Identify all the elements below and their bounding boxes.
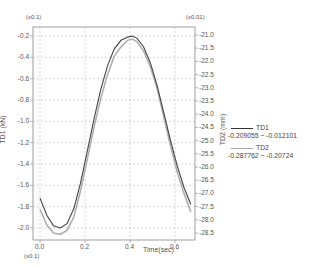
y-right-tick-label: -22.5	[199, 71, 214, 78]
y-left-tick-label: -0.8	[1, 96, 29, 103]
y-left-tick-label: -1.8	[1, 203, 29, 210]
y-right-tick-label: -25.5	[199, 150, 214, 157]
y-right-tick-label: -27.0	[199, 189, 214, 196]
legend-swatch-td2	[231, 148, 253, 149]
y-right-tick-label: -24.5	[199, 123, 214, 130]
y-right-axis-label: TD2 (mm)	[219, 114, 226, 146]
y-right-tick-label: -28.5	[199, 229, 214, 236]
y-right-multiplier: (x0.01)	[186, 14, 205, 20]
y-right-tick-label: -24.0	[199, 110, 214, 117]
y-left-tick-label: -0.2	[1, 32, 29, 39]
legend-label-td1: TD1	[256, 124, 269, 131]
legend-swatch-td1	[231, 128, 253, 129]
y-right-tick-label: -21.0	[199, 31, 214, 38]
y-right-tick-label: -28.0	[199, 216, 214, 223]
series-line-td1	[40, 36, 191, 228]
x-tick-label: 0.4	[125, 243, 134, 250]
y-left-tick-label: -0.6	[1, 75, 29, 82]
x-multiplier: (x0.1)	[24, 253, 39, 259]
x-axis-label: Time(sec)	[143, 246, 174, 253]
series-line-td2	[40, 39, 191, 234]
y-right-tick-label: -23.0	[199, 84, 214, 91]
y-left-tick-label: -1.4	[1, 160, 29, 167]
legend-range-td1: -0.209055 ~ -0.012101	[228, 132, 297, 139]
y-right-tick-label: -27.5	[199, 203, 214, 210]
y-right-tick-label: -25.0	[199, 137, 214, 144]
y-left-multiplier: (x0.1)	[26, 14, 41, 20]
legend-range-td2: -0.287762 ~ -0.20724	[228, 152, 293, 159]
x-tick-label: 0.2	[80, 243, 89, 250]
legend-label-td2: TD2	[256, 144, 269, 151]
y-right-tick-label: -23.5	[199, 97, 214, 104]
y-right-tick-label: -21.5	[199, 44, 214, 51]
y-left-tick-label: -0.4	[1, 53, 29, 60]
x-tick-label: 0.0	[35, 243, 44, 250]
y-right-tick-label: -26.5	[199, 176, 214, 183]
y-right-tick-label: -22.0	[199, 57, 214, 64]
y-right-tick-label: -26.0	[199, 163, 214, 170]
y-left-axis-label: TD1 (kN)	[0, 115, 6, 143]
y-left-tick-label: -2.0	[1, 224, 29, 231]
y-left-tick-label: -1.6	[1, 181, 29, 188]
